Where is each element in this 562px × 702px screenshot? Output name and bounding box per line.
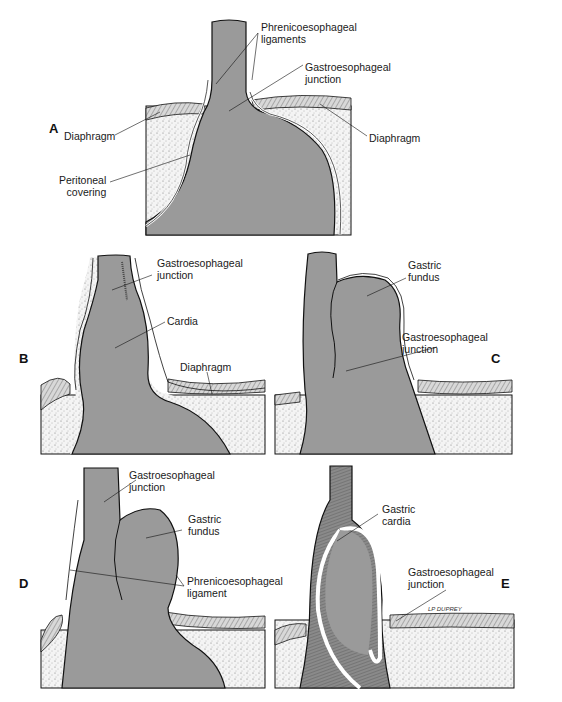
- panel-b: [41, 255, 265, 454]
- label-diaphragm-a-left: Diaphragm: [64, 130, 115, 142]
- panel-letter-e: E: [501, 576, 510, 591]
- panel-letter-c: C: [491, 351, 500, 366]
- label-gastric-fundus-c: Gastric fundus: [408, 259, 441, 283]
- panel-letter-b: B: [19, 351, 28, 366]
- label-ge-junction-d: Gastroesophageal junction: [129, 469, 215, 493]
- label-gastric-cardia: Gastric cardia: [382, 503, 415, 527]
- artist-signature: LP DUPREY: [428, 606, 462, 612]
- label-cardia: Cardia: [167, 315, 198, 327]
- label-diaphragm-a-right: Diaphragm: [369, 132, 420, 144]
- label-ge-junction-e: Gastroesophageal junction: [408, 566, 494, 590]
- label-ge-junction-b: Gastroesophageal junction: [157, 257, 243, 281]
- label-peritoneal-covering: Peritoneal covering: [59, 174, 106, 198]
- label-ge-junction-c: Gastroesophageal junction: [402, 331, 488, 355]
- label-gastric-fundus-d: Gastric fundus: [188, 513, 221, 537]
- label-phrenicoesophageal-ligaments: Phrenicoesophageal ligaments: [261, 21, 357, 45]
- panel-letter-d: D: [19, 576, 28, 591]
- panel-letter-a: A: [49, 121, 58, 136]
- label-phrenicoesophageal-ligament: Phrenicoesophageal ligament: [187, 575, 283, 599]
- panel-a: [110, 20, 367, 235]
- label-ge-junction-a: Gastroesophageal junction: [305, 61, 391, 85]
- label-diaphragm-b: Diaphragm: [180, 361, 231, 373]
